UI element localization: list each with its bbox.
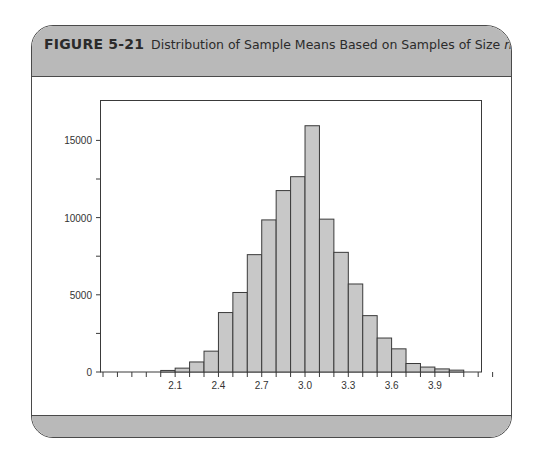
x-tick-label: 3.6	[385, 380, 399, 391]
y-tick-label: 15000	[64, 135, 92, 146]
y-axis-ticks: 050001000015000	[64, 135, 101, 378]
histogram-bar	[161, 370, 175, 372]
histogram-bar	[392, 349, 406, 372]
histogram-bar	[305, 126, 319, 372]
x-tick-label: 3.3	[341, 380, 355, 391]
histogram-bar	[420, 367, 434, 372]
histogram-bar	[190, 362, 204, 372]
x-tick-label: 2.4	[211, 380, 225, 391]
x-tick-label: 2.1	[168, 380, 182, 391]
y-tick-label: 5000	[70, 290, 93, 301]
histogram-bar	[175, 368, 189, 372]
histogram-bar	[319, 219, 333, 372]
y-tick-label: 10000	[64, 213, 92, 224]
histogram-bar	[363, 316, 377, 372]
histogram-bar	[348, 284, 362, 372]
histogram-bars	[161, 126, 464, 372]
y-tick-label: 0	[86, 367, 92, 378]
histogram-bar	[377, 338, 391, 372]
histogram-bar	[218, 313, 232, 372]
histogram-bar	[247, 255, 261, 372]
histogram-bar	[435, 369, 449, 372]
x-axis-ticks: 2.12.42.73.03.33.63.9	[103, 372, 493, 391]
histogram-bar	[262, 220, 276, 372]
x-tick-label: 3.0	[298, 380, 312, 391]
histogram-bar	[291, 177, 305, 372]
histogram-bar	[449, 370, 463, 372]
histogram-chart: 2.12.42.73.03.33.63.9 050001000015000	[0, 0, 543, 462]
histogram-bar	[276, 191, 290, 372]
x-tick-label: 2.7	[255, 380, 269, 391]
histogram-bar	[204, 351, 218, 372]
histogram-bar	[406, 364, 420, 372]
histogram-bar	[334, 252, 348, 372]
x-tick-label: 3.9	[428, 380, 442, 391]
histogram-bar	[233, 292, 247, 372]
